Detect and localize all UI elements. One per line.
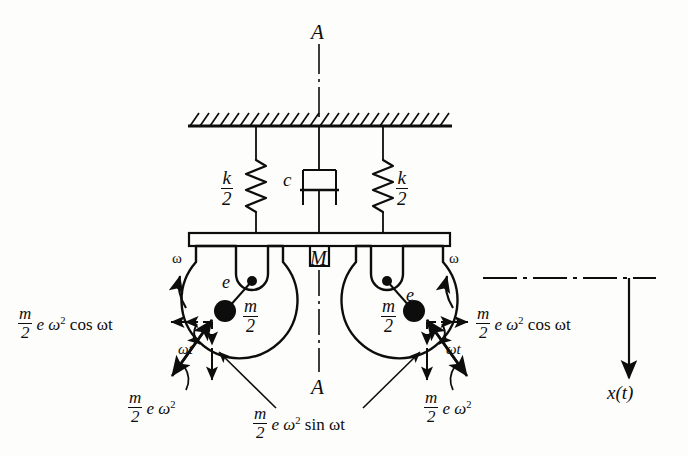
- force-cos-left-trig: cos ωt: [70, 315, 113, 334]
- force-sin-center-tail: e ω: [272, 415, 296, 434]
- force-resultant-right-tail: e ω: [443, 399, 467, 418]
- rotor-right-eccentricity-label: e: [406, 286, 414, 304]
- spring-right: [373, 126, 393, 233]
- force-cos-left-numerator: m: [18, 305, 32, 324]
- damper: [300, 126, 339, 233]
- force-cos-right-denominator: 2: [476, 324, 490, 342]
- spring-left: [246, 126, 266, 233]
- displacement-label: x(t): [607, 383, 633, 402]
- angle-right-label: ωt: [446, 342, 461, 357]
- force-group-left: [171, 320, 276, 408]
- force-cos-right-exponent: 2: [518, 315, 523, 326]
- force-resultant-left-label: m 2 e ω2: [128, 389, 176, 426]
- force-resultant-left-tail: e ω: [147, 399, 171, 418]
- omega-right-label: ω: [449, 251, 459, 266]
- force-cos-left-label: m 2 e ω2 cos ωt: [18, 305, 113, 342]
- spring-left-denominator: 2: [221, 189, 233, 209]
- fixed-support: [188, 113, 452, 126]
- force-cos-right-numerator: m: [476, 305, 490, 324]
- omega-arrow-right: [446, 276, 453, 308]
- rotor-left-mass-numerator: m: [243, 297, 258, 317]
- rotor-right-mass-label: m 2: [381, 297, 396, 336]
- force-cos-left-tail: e ω: [37, 315, 61, 334]
- diagram-canvas: A A k 2 k 2 c M e e m 2 m 2 ω ω m 2: [0, 0, 688, 456]
- spring-right-denominator: 2: [396, 189, 408, 209]
- force-sin-center-trig: sin ωt: [305, 415, 345, 434]
- force-resultant-left-exponent: 2: [170, 399, 175, 410]
- damper-label: c: [283, 170, 291, 189]
- section-label-top: A: [311, 22, 324, 43]
- angle-left-label: ωt: [178, 342, 193, 357]
- rotor-left-eccentricity-label: e: [222, 273, 230, 291]
- force-resultant-right-exponent: 2: [466, 399, 471, 410]
- force-resultant-left-denominator: 2: [128, 408, 142, 426]
- force-sin-center-denominator: 2: [253, 424, 267, 442]
- force-sin-center-label: m 2 e ω2 sin ωt: [253, 405, 345, 442]
- force-resultant-left-numerator: m: [128, 389, 142, 408]
- spring-right-label: k 2: [396, 168, 408, 209]
- spring-right-numerator: k: [396, 168, 408, 189]
- force-sin-center-numerator: m: [253, 405, 267, 424]
- force-cos-left-denominator: 2: [18, 324, 32, 342]
- spring-left-label: k 2: [221, 168, 233, 209]
- section-label-bottom: A: [311, 377, 324, 398]
- force-resultant-right-label: m 2 e ω2: [424, 389, 472, 426]
- force-sin-center-exponent: 2: [295, 415, 300, 426]
- rotor-right-mass-denominator: 2: [381, 317, 396, 336]
- force-cos-right-trig: cos ωt: [528, 315, 571, 334]
- force-resultant-right-denominator: 2: [424, 408, 438, 426]
- force-resultant-right-numerator: m: [424, 389, 438, 408]
- rotor-left-mass-denominator: 2: [243, 317, 258, 336]
- force-cos-left-exponent: 2: [60, 315, 65, 326]
- rotor-left-mass-label: m 2: [243, 297, 258, 336]
- force-cos-right-label: m 2 e ω2 cos ωt: [476, 305, 571, 342]
- mass-label: M: [310, 248, 327, 268]
- rotating-unbalance-diagram: [0, 0, 688, 456]
- rotor-right-mass-numerator: m: [381, 297, 396, 317]
- force-cos-right-tail: e ω: [495, 315, 519, 334]
- omega-left-label: ω: [172, 251, 182, 266]
- spring-left-numerator: k: [221, 168, 233, 189]
